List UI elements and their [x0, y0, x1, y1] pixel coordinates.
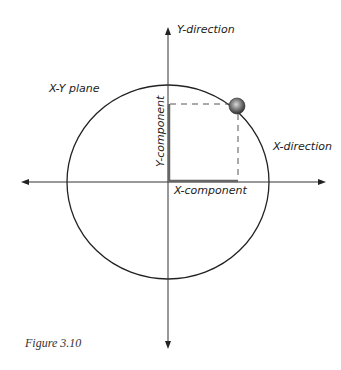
- figure-caption: Figure 3.10: [24, 336, 81, 350]
- x-axis-right-arrow-icon: [318, 179, 326, 185]
- figure-canvas: Y-direction X-Y plane X-direction X-comp…: [0, 0, 341, 370]
- x-direction-label: X-direction: [272, 140, 332, 153]
- x-axis-left-arrow-icon: [21, 179, 29, 185]
- y-direction-label: Y-direction: [177, 23, 235, 36]
- ball-point-icon: [229, 98, 245, 114]
- y-axis-up-arrow-icon: [165, 27, 171, 35]
- y-axis-down-arrow-icon: [165, 341, 171, 349]
- xy-plane-label: X-Y plane: [48, 82, 100, 95]
- x-component-label: X-component: [173, 184, 247, 197]
- y-component-label: Y-component: [154, 95, 167, 167]
- vector-component-diagram: Y-direction X-Y plane X-direction X-comp…: [0, 0, 341, 370]
